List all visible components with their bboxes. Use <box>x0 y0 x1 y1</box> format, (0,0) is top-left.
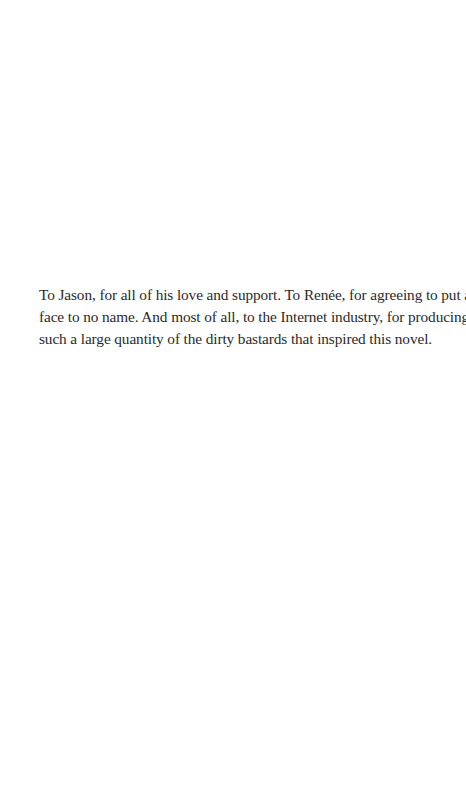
dedication-line-1: To Jason, for all of his love and suppor… <box>39 284 439 306</box>
dedication-paragraph: To Jason, for all of his love and suppor… <box>39 284 439 350</box>
dedication-line-2: face to no name. And most of all, to the… <box>39 306 439 328</box>
book-page: To Jason, for all of his love and suppor… <box>0 0 466 811</box>
dedication-line-3: such a large quantity of the dirty basta… <box>39 328 439 350</box>
